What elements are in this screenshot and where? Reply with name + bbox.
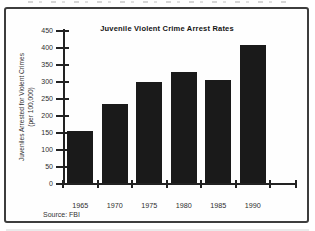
y-tick-label: 350 xyxy=(41,61,53,68)
bar-1990 xyxy=(240,45,266,184)
x-axis-label-1990: 1990 xyxy=(236,201,271,210)
x-axis-tick xyxy=(166,180,168,188)
source-note: Source: FBI xyxy=(43,211,80,218)
x-axis-label-1980: 1980 xyxy=(167,201,202,210)
x-axis-label-1985: 1985 xyxy=(201,201,236,210)
x-axis-end-tick xyxy=(295,180,297,188)
scan-shadow-bottom xyxy=(6,229,309,231)
x-axis-label-1970: 1970 xyxy=(98,201,133,210)
y-axis: 050100150200250300350400450 xyxy=(6,31,69,184)
y-tick-label: 50 xyxy=(45,163,53,170)
x-axis-tick xyxy=(131,180,133,188)
bar-1975 xyxy=(136,82,162,184)
cropped-text-fragment xyxy=(28,1,290,3)
y-tick-label: 100 xyxy=(41,146,53,153)
x-axis-labels: 196519701975198019851990 xyxy=(63,201,270,210)
x-axis-tick xyxy=(62,180,64,188)
bar-1965 xyxy=(67,131,93,184)
y-tick-label: 150 xyxy=(41,129,53,136)
y-tick-label: 400 xyxy=(41,44,53,51)
x-axis-label-1975: 1975 xyxy=(132,201,167,210)
x-axis-tick xyxy=(200,180,202,188)
x-axis-tick xyxy=(97,180,99,188)
y-tick-label: 200 xyxy=(41,112,53,119)
y-tick-label: 450 xyxy=(41,27,53,34)
y-tick-label: 0 xyxy=(49,180,53,187)
y-tick-label: 300 xyxy=(41,78,53,85)
chart-frame: Juvenile Violent Crime Arrest Rates Juve… xyxy=(4,7,309,223)
x-axis-tick xyxy=(235,180,237,188)
x-axis-line xyxy=(63,183,297,185)
x-axis-tick xyxy=(269,180,271,188)
plot-area xyxy=(63,31,270,184)
y-tick-label: 250 xyxy=(41,95,53,102)
x-axis-label-1965: 1965 xyxy=(63,201,98,210)
bar-1980 xyxy=(171,72,197,184)
bar-1985 xyxy=(205,80,231,184)
bar-1970 xyxy=(102,104,128,184)
